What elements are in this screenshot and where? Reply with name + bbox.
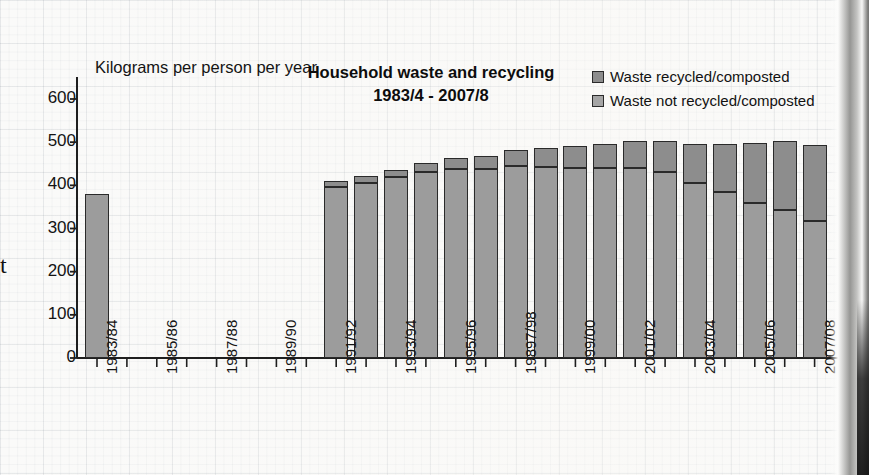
bar-recycled: [743, 143, 767, 203]
chart-figure: t Kilograms per person per year Househol…: [0, 0, 869, 475]
x-tick-label: 1987/88: [223, 320, 240, 374]
bar-recycled: [563, 146, 587, 168]
bar-recycled: [354, 176, 378, 183]
x-tick-label: 19897/98: [522, 311, 539, 374]
x-tick-label: 1985/86: [163, 320, 180, 374]
x-tick-label: 1995/96: [462, 320, 479, 374]
bar-recycled: [623, 141, 647, 168]
bar-recycled: [713, 144, 737, 191]
x-tick-label: 2003/04: [701, 320, 718, 374]
x-tick-label: 1983/84: [103, 320, 120, 374]
bar-recycled: [324, 181, 348, 187]
bar-recycled: [683, 144, 707, 183]
x-tick-label: 1999/00: [581, 320, 598, 374]
bar-recycled: [414, 163, 438, 172]
page-binding-dark-edge: [857, 300, 869, 475]
x-tick-label: 2001/02: [641, 320, 658, 374]
x-tick-label: 1989/90: [282, 320, 299, 374]
bar-recycled: [593, 144, 617, 168]
bar-recycled: [803, 145, 827, 221]
x-tick-label: 2005/06: [761, 320, 778, 374]
bar-recycled: [474, 156, 498, 169]
bar-recycled: [534, 148, 558, 167]
bar-recycled: [653, 141, 677, 171]
x-tick-label: 1993/94: [402, 320, 419, 374]
bar-recycled: [444, 158, 468, 169]
bar-recycled: [773, 141, 797, 210]
bar-recycled: [504, 150, 528, 166]
x-tick-label: 1991/92: [342, 320, 359, 374]
bar-recycled: [384, 170, 408, 176]
